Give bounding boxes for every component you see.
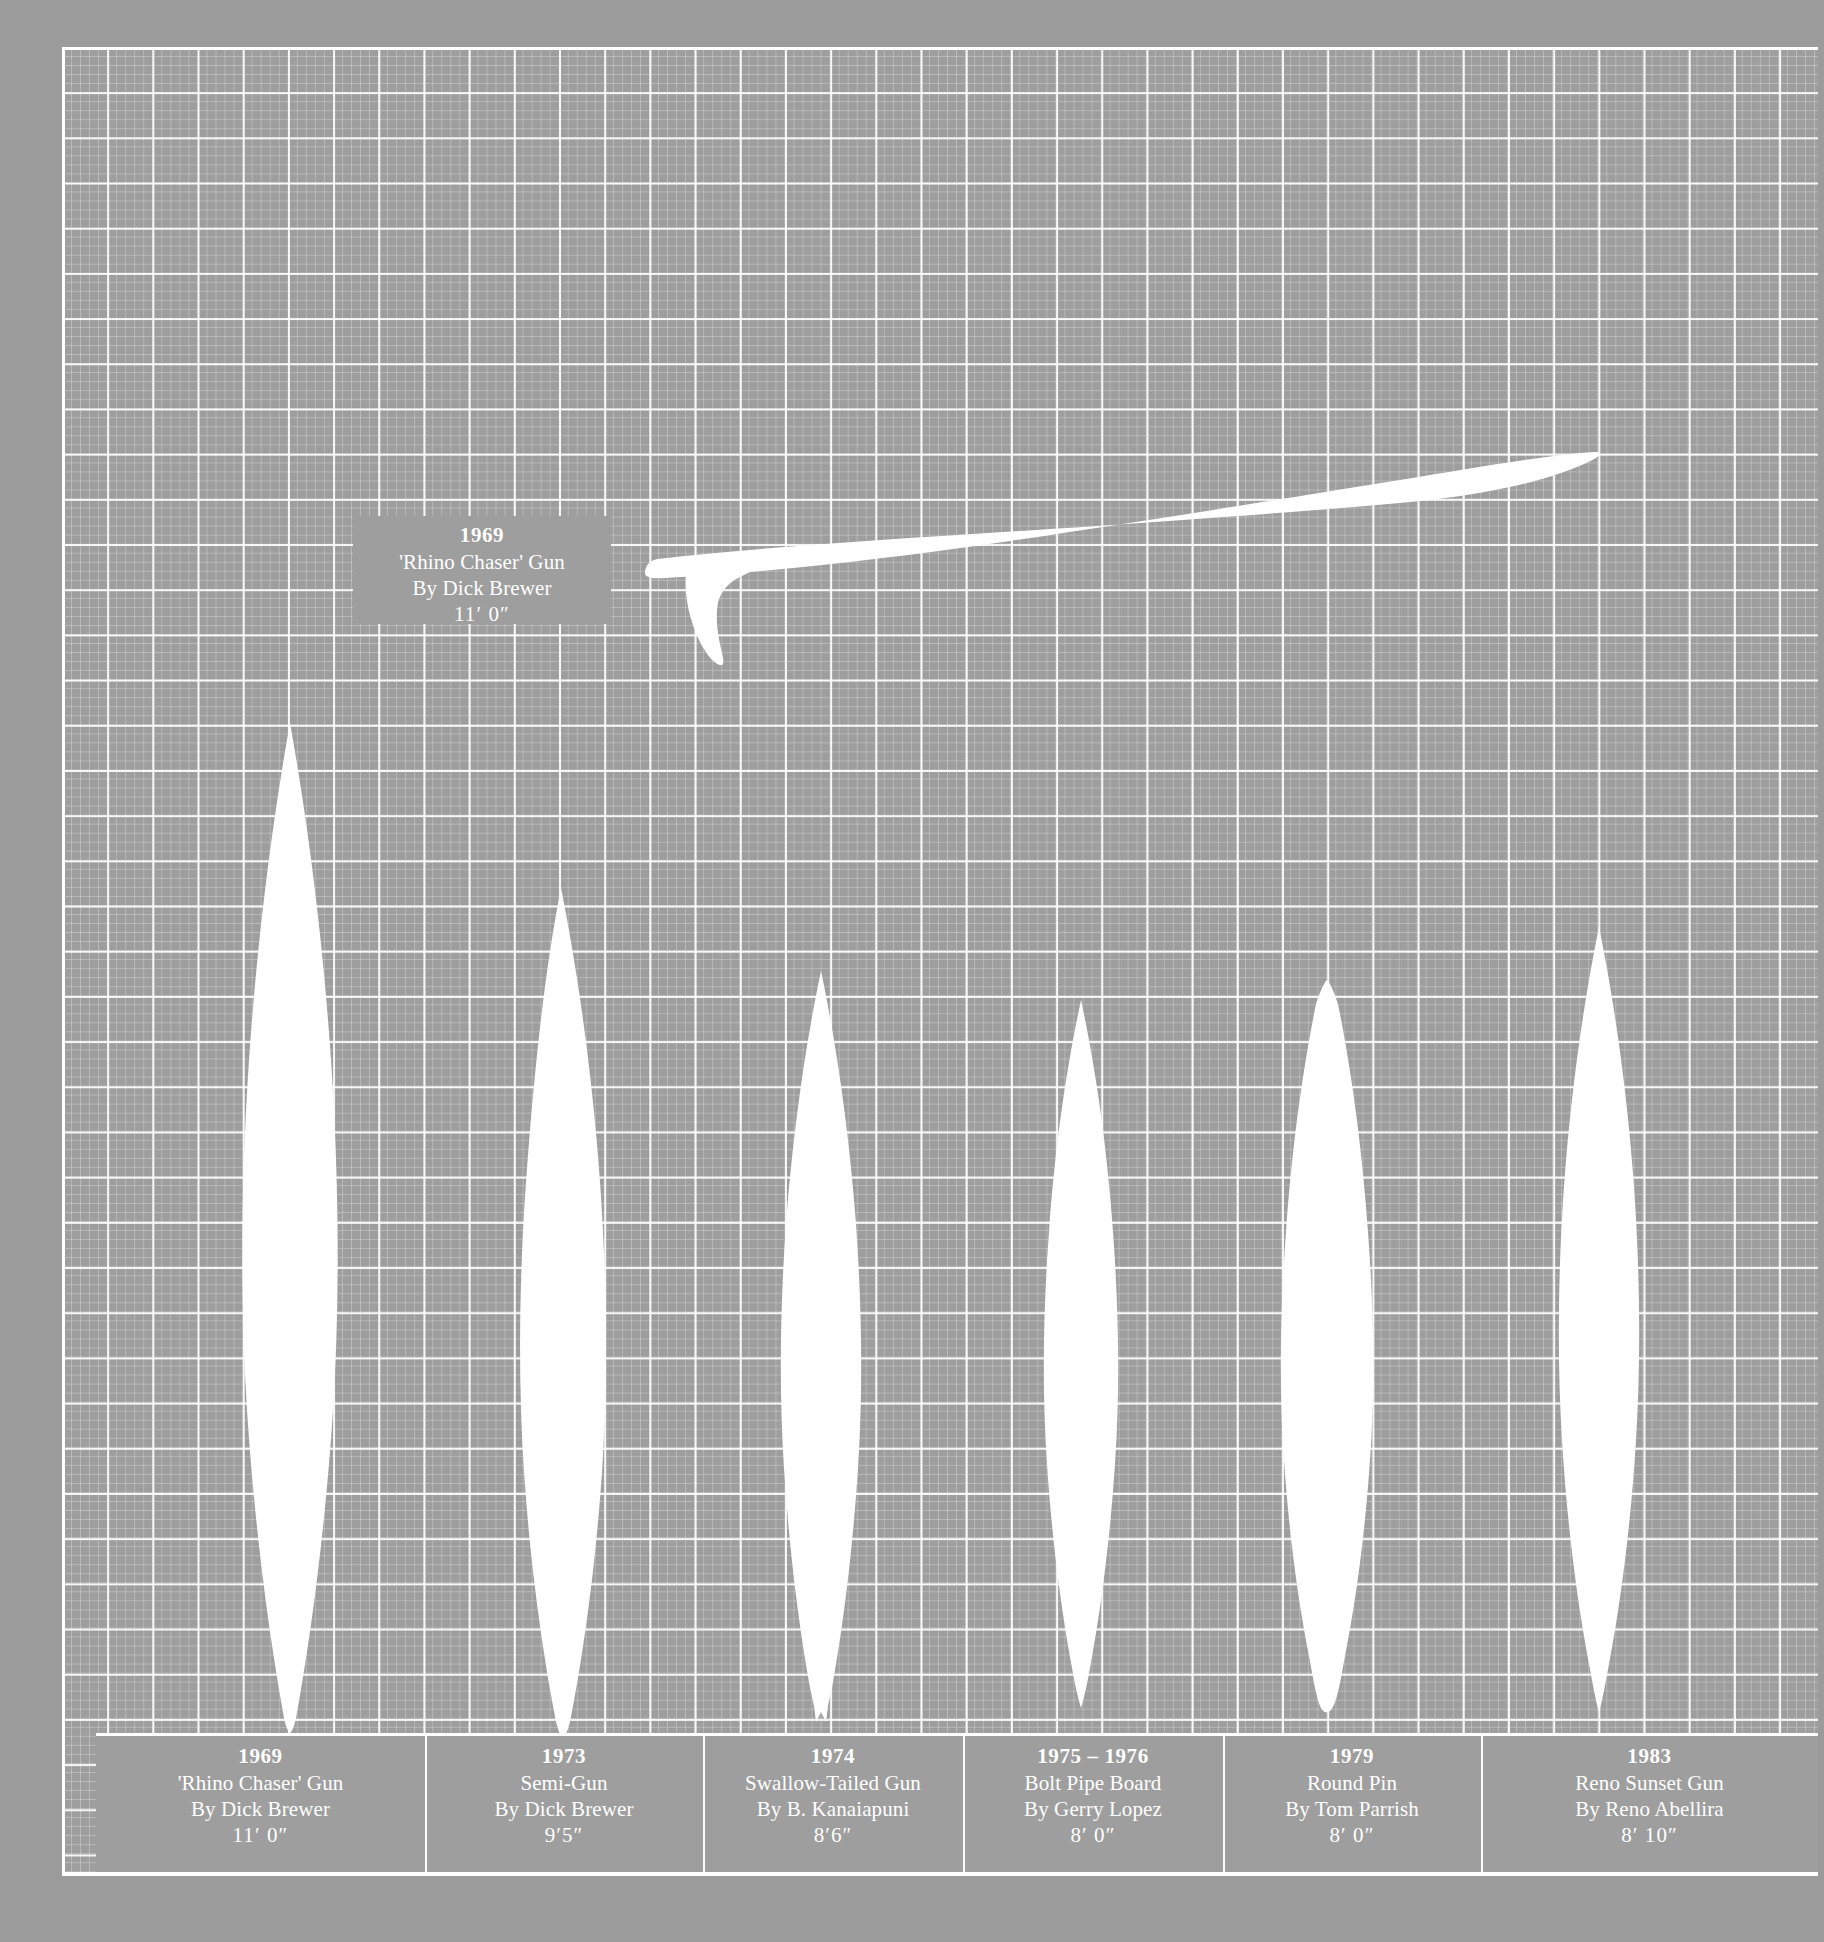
caption-name: Bolt Pipe Board	[963, 1770, 1223, 1796]
caption-maker: By Dick Brewer	[96, 1796, 425, 1822]
board-outline-1975-1976	[1044, 1000, 1118, 1708]
caption-length: 8′ 0″	[963, 1822, 1223, 1849]
profile-caption-maker: By Dick Brewer	[353, 575, 611, 601]
board-outline-1979	[1281, 980, 1373, 1712]
caption-year: 1969	[96, 1743, 425, 1770]
caption-cell-1983: 1983 Reno Sunset Gun By Reno Abellira 8′…	[1481, 1736, 1818, 1872]
graph-bottom-rule	[62, 1872, 1818, 1876]
caption-length: 8′ 10″	[1481, 1822, 1818, 1849]
caption-name: Semi-Gun	[425, 1770, 703, 1796]
caption-name: Swallow-Tailed Gun	[703, 1770, 963, 1796]
caption-maker: By B. Kanaiapuni	[703, 1796, 963, 1822]
caption-length: 8′6″	[703, 1822, 963, 1849]
caption-year: 1983	[1481, 1743, 1818, 1770]
board-outline-1974	[781, 971, 861, 1722]
board-outline-1973	[520, 888, 606, 1738]
caption-maker: By Gerry Lopez	[963, 1796, 1223, 1822]
profile-caption: 1969 'Rhino Chaser' Gun By Dick Brewer 1…	[353, 516, 611, 624]
caption-length: 9′5″	[425, 1822, 703, 1849]
caption-cell-1974: 1974 Swallow-Tailed Gun By B. Kanaiapuni…	[703, 1736, 963, 1872]
caption-cell-1973: 1973 Semi-Gun By Dick Brewer 9′5″	[425, 1736, 703, 1872]
caption-year: 1975 – 1976	[963, 1743, 1223, 1770]
profile-caption-year: 1969	[353, 522, 611, 549]
caption-cell-1979: 1979 Round Pin By Tom Parrish 8′ 0″	[1223, 1736, 1481, 1872]
caption-maker: By Reno Abellira	[1481, 1796, 1818, 1822]
caption-year: 1979	[1223, 1743, 1481, 1770]
caption-band: 1969 'Rhino Chaser' Gun By Dick Brewer 1…	[96, 1736, 1818, 1872]
caption-name: Reno Sunset Gun	[1481, 1770, 1818, 1796]
caption-length: 11′ 0″	[96, 1822, 425, 1849]
profile-caption-name: 'Rhino Chaser' Gun	[353, 549, 611, 575]
caption-cell-1975-1976: 1975 – 1976 Bolt Pipe Board By Gerry Lop…	[963, 1736, 1223, 1872]
board-outline-1983	[1559, 927, 1639, 1712]
profile-caption-length: 11′ 0″	[353, 601, 611, 628]
caption-length: 8′ 0″	[1223, 1822, 1481, 1849]
board-outline-1969	[242, 723, 337, 1733]
caption-cell-1969: 1969 'Rhino Chaser' Gun By Dick Brewer 1…	[96, 1736, 425, 1872]
board-profile-1969	[645, 452, 1600, 665]
caption-maker: By Tom Parrish	[1223, 1796, 1481, 1822]
caption-maker: By Dick Brewer	[425, 1796, 703, 1822]
caption-year: 1973	[425, 1743, 703, 1770]
caption-year: 1974	[703, 1743, 963, 1770]
caption-name: Round Pin	[1223, 1770, 1481, 1796]
surfboard-silhouettes	[0, 0, 1824, 1942]
caption-name: 'Rhino Chaser' Gun	[96, 1770, 425, 1796]
